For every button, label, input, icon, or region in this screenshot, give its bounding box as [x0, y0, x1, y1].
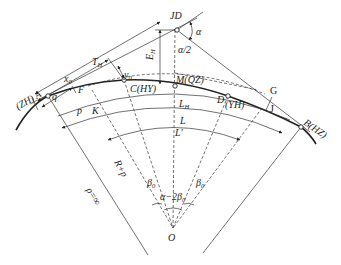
label-l-h: LH	[178, 98, 190, 110]
label-l-prime: L′	[174, 127, 184, 138]
ext-line-x0	[108, 58, 124, 80]
label-j: J	[270, 103, 274, 114]
label-alpha: α	[196, 26, 202, 37]
label-hy: C(HY)	[130, 83, 157, 95]
normal-line-a	[48, 96, 148, 255]
label-g: G	[270, 85, 277, 96]
radius-c	[124, 80, 173, 228]
label-e-h: EH	[144, 49, 156, 61]
diagram-svg: JD α α/2 EH TH x0 q F y0 C(HY) M(QZ) D (…	[0, 0, 341, 265]
point-jd	[175, 28, 179, 32]
label-rho-inf: ρ=∞	[84, 184, 104, 207]
label-o: O	[168, 232, 175, 243]
transition-curve-diagram: JD α α/2 EH TH x0 q F y0 C(HY) M(QZ) D (…	[0, 0, 341, 265]
arc-l-prime	[108, 128, 240, 141]
label-k: K	[91, 105, 100, 116]
label-jd: JD	[170, 10, 182, 21]
label-x0: x0	[63, 73, 72, 85]
label-beta0-right: β0	[195, 177, 205, 189]
label-alpha-half: α/2	[178, 44, 191, 55]
label-l: L	[179, 115, 186, 126]
point-zh	[46, 94, 50, 98]
radius-j	[173, 108, 262, 228]
alpha-arc	[189, 22, 192, 40]
label-d: D	[216, 94, 225, 105]
label-qz: M(QZ)	[175, 74, 204, 86]
label-yh: (YH)	[225, 99, 245, 111]
point-yh	[226, 94, 230, 98]
label-t-h: TH	[92, 56, 103, 68]
label-q: q	[52, 91, 57, 102]
beta0-arc-left	[152, 203, 162, 205]
label-beta0-left: β0	[146, 177, 156, 189]
label-y0: y0	[123, 69, 132, 81]
label-r-plus-p: R+p	[112, 157, 131, 179]
normal-line-b	[203, 127, 301, 253]
label-alpha-minus-2beta0: α−2β0	[160, 191, 186, 203]
radius-k	[92, 90, 173, 228]
beta0-arc-right	[184, 203, 194, 205]
label-hz: B(HZ)	[301, 117, 329, 142]
label-f: F	[77, 84, 85, 95]
label-p: p	[76, 105, 82, 116]
